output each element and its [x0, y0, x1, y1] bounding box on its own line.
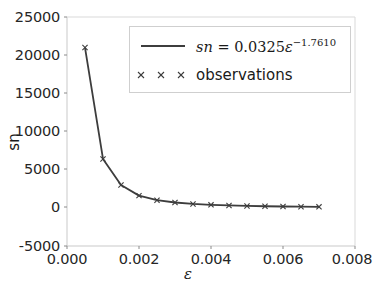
- legend: sn = 0.0325ε−1.7610 observations: [129, 26, 351, 93]
- chart-figure: 25000 20000 15000 10000 5000 0 -5000 0.0…: [0, 0, 376, 291]
- legend-marker-swatch: [130, 68, 196, 82]
- ytick-label-20000: 20000: [2, 47, 60, 63]
- ytick-label-25000: 25000: [2, 9, 60, 25]
- legend-fit-base: ε: [285, 39, 293, 55]
- legend-label-fit: sn = 0.0325ε−1.7610: [196, 37, 336, 55]
- legend-entry-fit: sn = 0.0325ε−1.7610: [130, 32, 350, 60]
- ytick-label-15000: 15000: [2, 85, 60, 101]
- legend-fit-lhs: sn: [196, 39, 213, 55]
- x-marker-icon: [133, 68, 193, 82]
- legend-line-swatch: [130, 41, 196, 51]
- x-axis-label: ε: [0, 265, 376, 283]
- legend-fit-exponent: −1.7610: [293, 37, 336, 48]
- y-axis-label: sn: [5, 122, 23, 162]
- legend-entry-observations: observations: [130, 61, 350, 89]
- observation-marker: [118, 182, 123, 187]
- legend-label-observations: observations: [196, 66, 293, 84]
- legend-fit-eq: = 0.0325: [213, 39, 285, 55]
- ytick-label-0: 0: [2, 199, 60, 215]
- ytick-label-5000: 5000: [2, 161, 60, 177]
